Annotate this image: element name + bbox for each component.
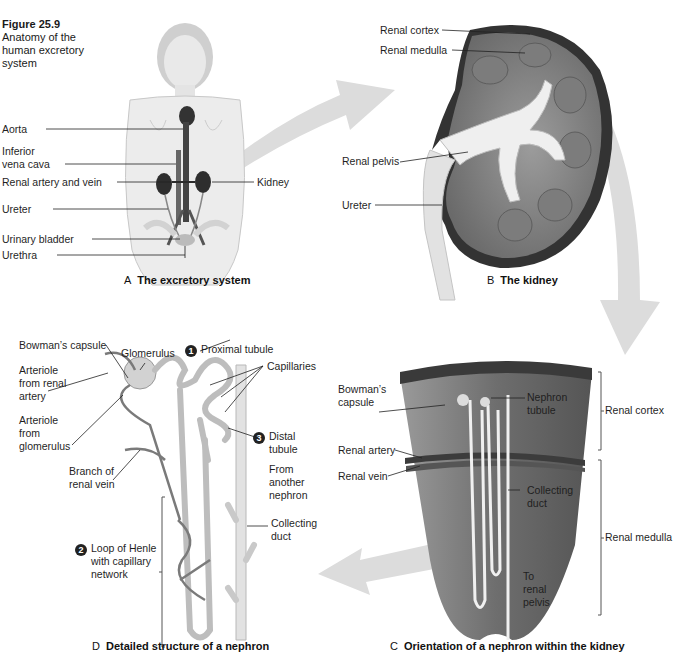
label-renal-cortex-b: Renal cortex bbox=[380, 24, 439, 37]
label-renal-artery-vein: Renal artery and vein bbox=[2, 176, 102, 189]
panel-b-caption: BThe kidney bbox=[487, 274, 558, 286]
label-arteriole-renal-3: artery bbox=[19, 390, 46, 403]
label-renal-pelvis: Renal pelvis bbox=[342, 155, 399, 168]
nephron-detail bbox=[105, 353, 254, 647]
label-collecting-c-1: Collecting bbox=[527, 484, 573, 497]
label-renal-medulla-b: Renal medulla bbox=[380, 44, 447, 57]
label-ureter-b: Ureter bbox=[342, 199, 371, 212]
label-collecting-c-2: duct bbox=[527, 497, 547, 510]
label-loop-1: 2Loop of Henle bbox=[75, 542, 156, 556]
label-aorta: Aorta bbox=[2, 123, 27, 136]
figure-title: Figure 25.9 Anatomy of the human excreto… bbox=[2, 18, 112, 70]
label-ivc-1: Inferior bbox=[2, 145, 35, 158]
label-to-3: pelvis bbox=[523, 596, 550, 609]
label-bowmans-c-2: capsule bbox=[338, 396, 374, 409]
panel-a-caption: AThe excretory system bbox=[124, 274, 250, 286]
brackets-c bbox=[598, 372, 604, 615]
label-ivc-2: vena cava bbox=[2, 158, 50, 171]
label-from-1: From bbox=[269, 463, 294, 476]
label-loop-3: network bbox=[91, 568, 128, 581]
panel-d-caption: DDetailed structure of a nephron bbox=[92, 640, 269, 652]
step-2-badge: 2 bbox=[75, 544, 87, 556]
label-proximal-tubule: 1Proximal tubule bbox=[185, 343, 273, 357]
label-kidney: Kidney bbox=[257, 176, 289, 189]
step-3-badge: 3 bbox=[253, 432, 265, 444]
panel-c-caption: COrientation of a nephron within the kid… bbox=[390, 640, 625, 652]
label-arteriole-glom-1: Arteriole bbox=[19, 414, 58, 427]
label-urinary-bladder: Urinary bladder bbox=[2, 233, 74, 246]
label-renal-artery: Renal artery bbox=[338, 444, 395, 457]
label-bowmans-c-1: Bowman’s bbox=[338, 383, 386, 396]
label-arteriole-glom-2: from bbox=[19, 427, 40, 440]
label-arteriole-renal-1: Arteriole bbox=[19, 364, 58, 377]
figure-caption: Anatomy of the human excretory system bbox=[2, 31, 84, 69]
human-figure bbox=[125, 23, 244, 285]
label-arteriole-renal-2: from renal bbox=[19, 377, 66, 390]
label-nephron-1: Nephron bbox=[527, 391, 567, 404]
label-from-3: nephron bbox=[269, 489, 308, 502]
label-renal-vein: Renal vein bbox=[338, 470, 388, 483]
label-renal-medulla-c: Renal medulla bbox=[605, 531, 672, 544]
label-from-2: another bbox=[269, 476, 305, 489]
step-1-badge: 1 bbox=[185, 345, 197, 357]
label-collecting-d-2: duct bbox=[271, 530, 291, 543]
label-renal-cortex-c: Renal cortex bbox=[605, 404, 664, 417]
label-to-2: renal bbox=[523, 583, 546, 596]
label-distal-1: 3Distal bbox=[253, 430, 295, 444]
label-collecting-d-1: Collecting bbox=[271, 517, 317, 530]
label-branch-2: renal vein bbox=[69, 478, 115, 491]
label-urethra: Urethra bbox=[2, 249, 37, 262]
kidney-cross-section bbox=[423, 25, 612, 300]
label-branch-1: Branch of bbox=[69, 465, 114, 478]
label-to-1: To bbox=[523, 570, 534, 583]
label-arteriole-glom-3: glomerulus bbox=[19, 440, 70, 453]
label-distal-2: tubule bbox=[269, 443, 298, 456]
label-nephron-2: tubule bbox=[527, 404, 556, 417]
figure-number: Figure 25.9 bbox=[2, 18, 112, 31]
label-loop-2: with capillary bbox=[91, 555, 151, 568]
label-ureter-a: Ureter bbox=[2, 203, 31, 216]
label-bowmans-capsule-d: Bowman’s capsule bbox=[19, 339, 106, 352]
label-glomerulus: Glomerulus bbox=[121, 347, 175, 360]
label-capillaries: Capillaries bbox=[267, 360, 316, 373]
